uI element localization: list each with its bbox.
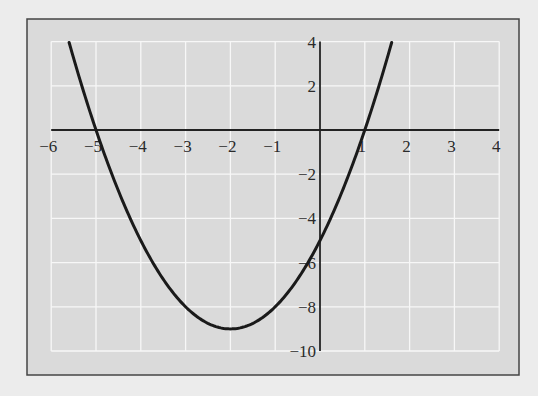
x-tick-label: −6 [39,137,57,156]
x-tick-label: −1 [263,137,281,156]
chart-frame [27,19,519,375]
y-tick-label: −4 [298,209,317,228]
y-tick-label: 2 [308,77,317,96]
x-tick-label: 4 [492,137,501,156]
y-tick-label: −10 [289,342,316,361]
y-tick-label: −2 [298,165,316,184]
x-tick-label: −3 [174,137,192,156]
parabola-chart: −6−5−4−3−2−11234 42−2−4−6−8−10 [0,0,538,396]
y-tick-label: 4 [308,33,317,52]
x-tick-label: 2 [402,137,411,156]
y-tick-label: −8 [298,298,316,317]
x-tick-label: −4 [129,137,148,156]
x-tick-label: −2 [218,137,236,156]
x-tick-label: 3 [447,137,456,156]
